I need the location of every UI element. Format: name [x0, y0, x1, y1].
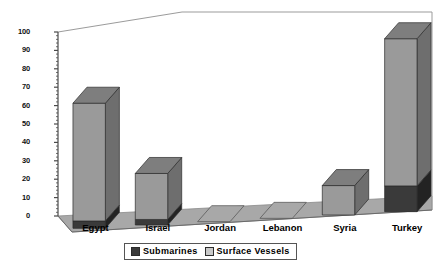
bar-israel	[135, 157, 181, 225]
bar-lebanon	[260, 202, 306, 218]
chart-container: 0102030405060708090100 EgyptIsraelJordan…	[0, 0, 445, 272]
legend-swatch-sub-icon	[131, 247, 140, 256]
chart-legend: SubmarinesSurface Vessels	[124, 243, 297, 260]
x-tick-label-syria: Syria	[333, 222, 356, 233]
bar-egypt	[73, 87, 119, 228]
x-tick-label-jordan: Jordan	[204, 222, 236, 233]
bar-syria	[322, 170, 368, 215]
x-tick-label-israel: Israel	[145, 222, 170, 233]
legend-label: Submarines	[143, 246, 198, 256]
legend-item-surf[interactable]: Surface Vessels	[205, 246, 290, 256]
legend-label: Surface Vessels	[217, 246, 290, 256]
x-tick-label-lebanon: Lebanon	[263, 222, 303, 233]
legend-item-sub[interactable]: Submarines	[131, 246, 198, 256]
x-axis: EgyptIsraelJordanLebanonSyriaTurkey	[0, 222, 445, 238]
legend-swatch-surf-icon	[205, 247, 214, 256]
x-tick-label-egypt: Egypt	[82, 222, 108, 233]
x-tick-label-turkey: Turkey	[392, 222, 422, 233]
bar-turkey	[385, 23, 431, 212]
bar-jordan	[198, 206, 244, 222]
